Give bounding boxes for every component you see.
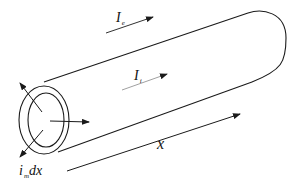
- x-axis-label: x: [157, 136, 164, 152]
- intracellular-current-arrow: [122, 74, 167, 90]
- label-main: i: [19, 163, 23, 178]
- x-axis-arrow: [67, 114, 240, 171]
- cable-diagram: [0, 0, 290, 186]
- label-suffix: dx: [29, 163, 42, 178]
- label-main: I: [116, 10, 121, 25]
- cylinder-far-end-cap: [248, 11, 286, 82]
- extracellular-current-arrow: [106, 17, 153, 33]
- cylinder-top-edge: [44, 13, 248, 82]
- outer-ring: [19, 86, 69, 154]
- label-main: I: [134, 68, 139, 83]
- label-subscript: e: [122, 19, 125, 27]
- label-subscript: i: [140, 77, 142, 85]
- axial-arrow-right: [50, 121, 89, 122]
- extracellular-current-label: Ie: [116, 11, 125, 25]
- cylinder-near-end: [19, 86, 69, 154]
- membrane-current-arrows: [20, 83, 89, 157]
- label-subscript: m: [24, 172, 29, 180]
- cylinder: [44, 11, 286, 152]
- radial-arrow-up-left: [20, 83, 42, 112]
- membrane-current-label: imdx: [19, 164, 42, 178]
- intracellular-current-label: Ii: [134, 69, 142, 83]
